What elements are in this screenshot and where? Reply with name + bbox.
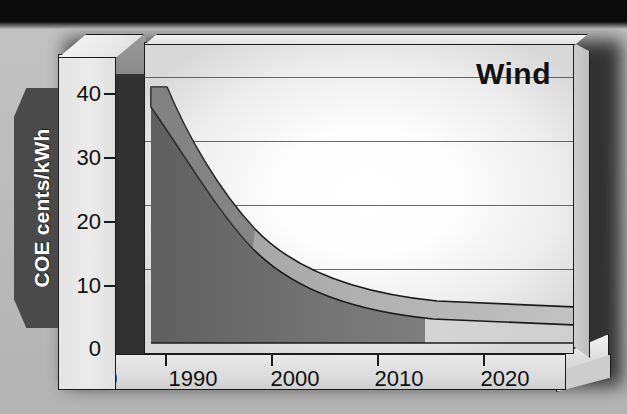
x-label-2020: 2020 [481,366,530,392]
x-label-2000: 2000 [271,366,320,392]
plot-title: Wind [476,57,551,91]
x-tick-2000 [271,355,273,366]
top-band-fade [0,22,627,29]
x-axis-floor: 1980 1990 2000 2010 2020 [58,354,566,390]
y-label-0: 0 [89,336,101,362]
y-axis-title-label: COE cents/kWh [30,129,54,288]
y-label-30: 30 [77,145,101,171]
y-tick-20 [104,221,115,223]
y-axis-wall: 40 30 20 10 0 [58,54,116,390]
top-black-band [0,0,627,22]
plot-area: Wind [144,42,574,354]
y-tick-10 [104,285,115,287]
x-tick-1990 [165,355,167,366]
y-tick-30 [104,157,115,159]
y-tick-40 [104,93,115,95]
x-tick-2010 [377,355,379,366]
y-label-20: 20 [77,209,101,235]
x-label-1990: 1990 [169,366,218,392]
y-label-40: 40 [77,81,101,107]
x-tick-2020 [483,355,485,366]
x-label-2010: 2010 [375,366,424,392]
plot-right-wall [572,42,590,358]
y-label-10: 10 [77,273,101,299]
chart-screenshot: COE cents/kWh 1980 1990 2000 2010 2020 4 [0,0,627,414]
plot-top-lip [144,34,588,45]
chart-body: 1980 1990 2000 2010 2020 40 30 20 10 0 [58,34,608,384]
